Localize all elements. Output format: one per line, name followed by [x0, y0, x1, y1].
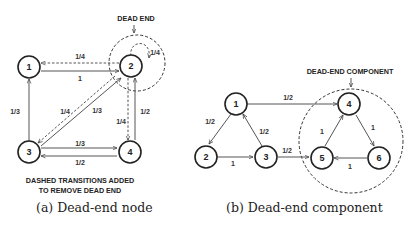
node-a-1: 1 [18, 56, 40, 78]
edge-label-2-to-4: 1/4 [116, 118, 126, 125]
node-a-2-label: 2 [128, 61, 133, 71]
node-b-3: 3 [255, 146, 277, 168]
dashed-note-line2: TO REMOVE DEAD END [39, 186, 122, 195]
node-a-4-label: 4 [127, 147, 132, 157]
node-a-3: 3 [18, 141, 40, 163]
caption-b: (b) Dead-end component [226, 200, 383, 215]
edge-label-b-3-to-5: 1/2 [282, 147, 292, 154]
edge-label-2-to-1: 1/4 [75, 53, 85, 60]
node-b-6: 6 [368, 147, 390, 169]
node-a-4: 4 [119, 141, 141, 163]
edge-label-b-4-to-6: 1 [371, 124, 375, 131]
edge-label-1-to-2: 1 [78, 75, 82, 82]
dead-end-label: DEAD END [117, 14, 155, 23]
edge-label-4-to-3: 1/2 [75, 159, 85, 166]
node-b-2-label: 2 [203, 152, 208, 162]
node-a-2: 2 [120, 55, 142, 77]
node-b-4-label: 4 [346, 99, 351, 109]
edge-label-b-3-to-1: 1/2 [259, 128, 269, 135]
edge-2-to-3 [38, 76, 115, 143]
figure-canvas: DEAD END 1/4 1 1/4 1/3 1/4 1/3 1/4 1/2 1… [0, 0, 419, 228]
node-b-1-label: 1 [233, 99, 238, 109]
edge-label-b-1-to-2: 1/2 [205, 118, 215, 125]
node-b-6-label: 6 [376, 153, 381, 163]
node-a-1-label: 1 [26, 62, 31, 72]
node-b-3-label: 3 [263, 152, 268, 162]
edge-label-2-to-3: 1/4 [60, 108, 70, 115]
node-b-5-label: 5 [319, 153, 324, 163]
caption-a: (a) Dead-end node [36, 200, 153, 215]
edge-label-b-6-to-5: 1 [348, 163, 352, 170]
edge-label-2-self: 1/4 [150, 49, 160, 56]
edge-label-b-5-to-4: 1 [320, 128, 324, 135]
edge-label-b-1-to-4: 1/2 [283, 94, 293, 101]
node-a-3-label: 3 [26, 147, 31, 157]
node-b-4: 4 [338, 93, 360, 115]
edge-b-5-to-4 [325, 115, 343, 146]
edge-label-b-2-to-3: 1 [231, 160, 235, 167]
node-b-5: 5 [311, 147, 333, 169]
dashed-note-line1: DASHED TRANSITIONS ADDED [26, 176, 134, 185]
node-b-1: 1 [225, 93, 247, 115]
edge-3-to-2 [41, 78, 121, 146]
edge-label-3-to-2: 1/3 [92, 107, 102, 114]
figure-b-dead-end-component: DEAD-END COMPONENT 1/2 1/2 1 1/2 1/2 1 1… [195, 67, 403, 193]
figure-a-dead-end-node: DEAD END 1/4 1 1/4 1/3 1/4 1/3 1/4 1/2 1… [10, 14, 165, 195]
node-b-2: 2 [195, 146, 217, 168]
edge-label-4-to-2: 1/2 [140, 108, 150, 115]
edge-label-3-to-1: 1/3 [10, 108, 20, 115]
dead-end-component-label: DEAD-END COMPONENT [307, 67, 394, 76]
edge-label-3-to-4: 1/3 [75, 140, 85, 147]
